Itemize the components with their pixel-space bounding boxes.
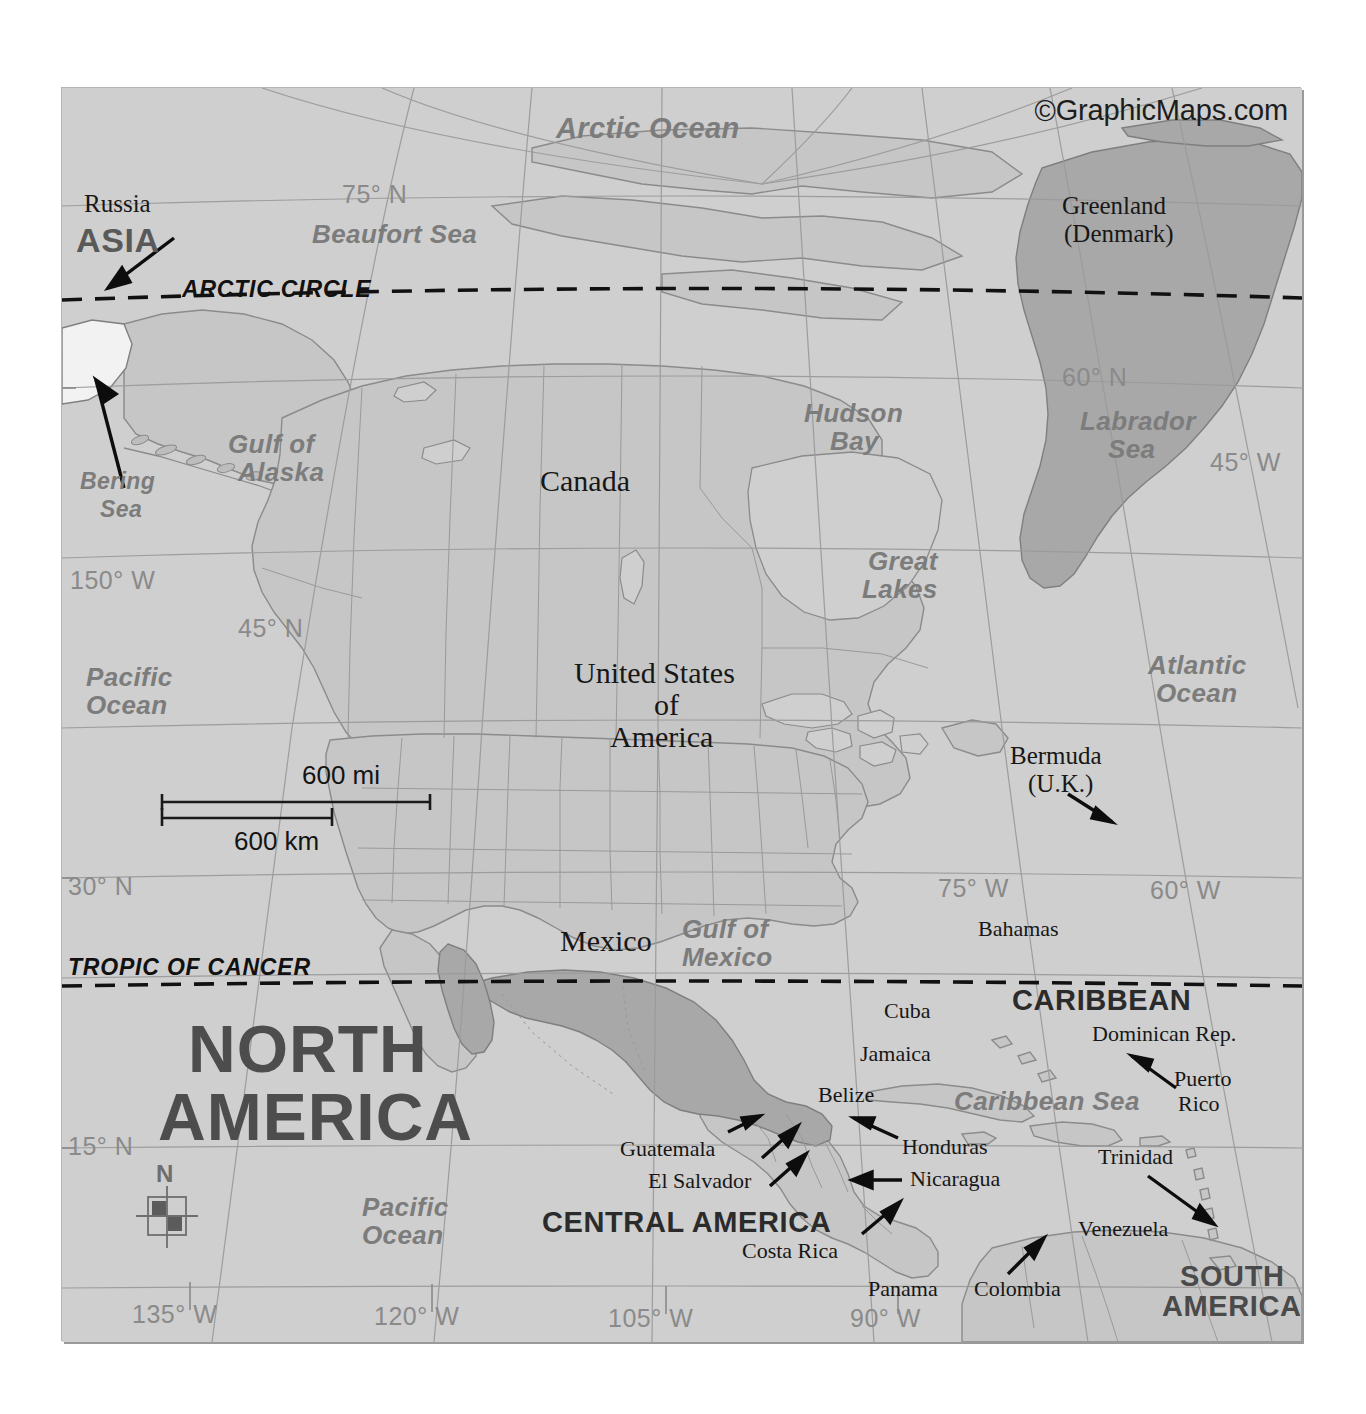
label-colombia: Colombia (974, 1278, 1061, 1300)
label-caribbean-sea: Caribbean Sea (954, 1088, 1140, 1115)
coord-lon-45w: 45° W (1210, 450, 1281, 476)
scale-bar-kilometers: 600 km (234, 828, 319, 855)
label-central-america: CENTRAL AMERICA (542, 1208, 831, 1238)
label-great-lakes-line1: Great (868, 548, 938, 575)
label-great-lakes-line2: Lakes (862, 576, 938, 603)
coord-lat-60n: 60° N (1062, 365, 1127, 391)
map-panel: ©GraphicMaps.com Arctic Ocean Beaufort S… (62, 88, 1302, 1342)
label-beaufort-sea: Beaufort Sea (312, 221, 477, 248)
coord-lon-75w: 75° W (938, 876, 1009, 902)
coord-lon-135w: 135° W (132, 1302, 217, 1328)
label-greenland-line2: (Denmark) (1064, 221, 1174, 247)
label-north-america-line1: NORTH (188, 1018, 428, 1081)
compass-north-label: N (156, 1160, 173, 1188)
label-bermuda-line1: Bermuda (1010, 743, 1102, 769)
coord-lon-150w: 150° W (70, 568, 155, 594)
label-canada: Canada (540, 466, 630, 497)
label-pacific-ocean-north-line1: Pacific (86, 664, 173, 691)
coord-lon-120w: 120° W (374, 1304, 459, 1330)
label-gulf-of-alaska-line2: Alaska (238, 459, 324, 486)
label-cuba: Cuba (884, 1000, 930, 1022)
label-north-america-line2: AMERICA (158, 1086, 473, 1149)
label-labrador-sea-line2: Sea (1108, 436, 1155, 463)
label-atlantic-ocean-line2: Ocean (1156, 680, 1238, 707)
label-bermuda-line2: (U.K.) (1028, 771, 1093, 797)
copyright-text: GraphicMaps.com (1056, 94, 1288, 126)
label-trinidad: Trinidad (1098, 1146, 1173, 1168)
label-puerto-rico-line1: Puerto (1174, 1068, 1231, 1090)
coord-lat-15n: 15° N (68, 1134, 133, 1160)
coord-lat-75n: 75° N (342, 182, 407, 208)
label-costa-rica: Costa Rica (742, 1240, 838, 1262)
label-venezuela: Venezuela (1078, 1218, 1168, 1240)
label-pacific-ocean-south-line2: Ocean (362, 1222, 444, 1249)
label-hudson-bay-line1: Hudson (804, 400, 903, 427)
label-puerto-rico-line2: Rico (1178, 1093, 1220, 1115)
label-tropic-of-cancer: TROPIC OF CANCER (68, 956, 311, 979)
label-bahamas: Bahamas (978, 918, 1059, 940)
coord-lon-105w: 105° W (608, 1306, 693, 1332)
label-usa-line2: of (654, 690, 679, 721)
label-bering-sea-line1: Bering (80, 470, 155, 493)
label-usa-line1: United States (574, 658, 735, 689)
label-arctic-ocean: Arctic Ocean (556, 114, 740, 144)
label-russia: Russia (84, 191, 151, 217)
label-atlantic-ocean-line1: Atlantic (1148, 652, 1247, 679)
label-jamaica: Jamaica (860, 1043, 931, 1065)
label-arctic-circle: ARCTIC CIRCLE (182, 278, 371, 301)
label-dominican-rep: Dominican Rep. (1092, 1023, 1236, 1045)
label-bering-sea-line2: Sea (100, 498, 142, 521)
copyright-notice: ©GraphicMaps.com (1035, 94, 1288, 128)
label-panama: Panama (868, 1278, 938, 1300)
label-nicaragua: Nicaragua (910, 1168, 1000, 1190)
label-gulf-of-mexico-line2: Mexico (682, 944, 773, 971)
label-labrador-sea-line1: Labrador (1080, 408, 1196, 435)
scale-bar-miles: 600 mi (302, 762, 380, 789)
label-caribbean: CARIBBEAN (1012, 986, 1191, 1016)
label-honduras: Honduras (902, 1136, 988, 1158)
label-pacific-ocean-south-line1: Pacific (362, 1194, 449, 1221)
coord-lat-45n: 45° N (238, 616, 303, 642)
copyright-symbol: © (1035, 95, 1056, 127)
coord-lon-90w: 90° W (850, 1306, 921, 1332)
label-el-salvador: El Salvador (648, 1170, 751, 1192)
label-hudson-bay-line2: Bay (830, 428, 879, 455)
label-greenland-line1: Greenland (1062, 193, 1166, 219)
label-south-america-line1: SOUTH (1180, 1262, 1285, 1292)
coord-lat-30n: 30° N (68, 874, 133, 900)
label-gulf-of-mexico-line1: Gulf of (682, 916, 769, 943)
label-pacific-ocean-north-line2: Ocean (86, 692, 168, 719)
coord-lon-60w: 60° W (1150, 878, 1221, 904)
label-belize: Belize (818, 1084, 874, 1106)
label-asia: ASIA (76, 223, 160, 258)
label-mexico: Mexico (560, 926, 652, 957)
label-gulf-of-alaska-line1: Gulf of (228, 431, 315, 458)
label-guatemala: Guatemala (620, 1138, 715, 1160)
label-south-america-line2: AMERICA (1162, 1292, 1302, 1322)
label-usa-line3: America (610, 722, 713, 753)
